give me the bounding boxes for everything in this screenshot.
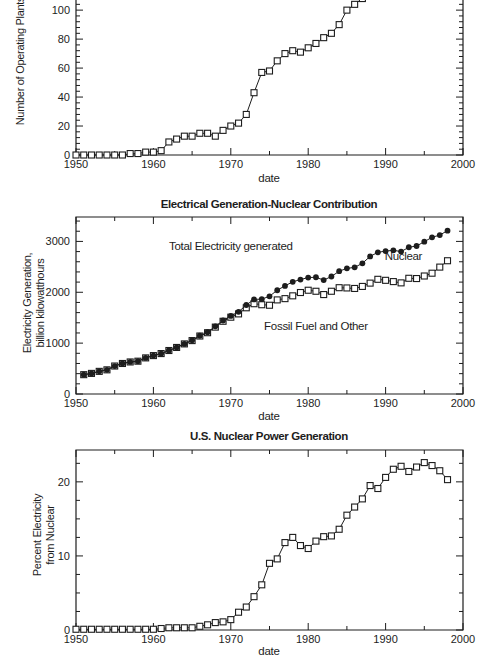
svg-text:0: 0 xyxy=(64,149,70,161)
svg-text:80: 80 xyxy=(58,33,70,45)
svg-text:1970: 1970 xyxy=(219,633,243,645)
svg-text:1990: 1990 xyxy=(373,397,397,409)
svg-text:1000: 1000 xyxy=(46,337,70,349)
svg-text:0: 0 xyxy=(64,388,70,400)
svg-text:1990: 1990 xyxy=(373,633,397,645)
svg-text:1970: 1970 xyxy=(219,397,243,409)
figure-page: 1950196019701980199020000204060801001950… xyxy=(0,0,497,656)
svg-text:1960: 1960 xyxy=(141,633,165,645)
plants-y-axis-label: Number of Operating Plants xyxy=(14,0,27,125)
chart-operating-plants: 195019601970198019902000020406080100 xyxy=(52,0,476,170)
svg-text:1980: 1980 xyxy=(296,158,320,170)
svg-text:1990: 1990 xyxy=(373,158,397,170)
svg-text:40: 40 xyxy=(58,91,70,103)
svg-text:2000: 2000 xyxy=(451,633,475,645)
svg-text:10: 10 xyxy=(58,550,70,562)
svg-text:Nuclear: Nuclear xyxy=(385,250,423,262)
svg-text:20: 20 xyxy=(58,476,70,488)
svg-text:2000: 2000 xyxy=(46,286,70,298)
percent-y-axis-label-line2: from Nuclear xyxy=(43,494,56,576)
svg-text:20: 20 xyxy=(58,120,70,132)
svg-text:1960: 1960 xyxy=(141,158,165,170)
percent-y-axis-label: Percent Electricity from Nuclear xyxy=(31,494,56,576)
percent-chart-title: U.S. Nuclear Power Generation xyxy=(190,430,348,442)
svg-text:2000: 2000 xyxy=(451,158,475,170)
svg-text:2000: 2000 xyxy=(451,397,475,409)
svg-text:1980: 1980 xyxy=(296,633,320,645)
generation-x-axis-label: date xyxy=(258,410,280,422)
svg-text:0: 0 xyxy=(64,624,70,636)
chart-nuclear-percent: 19501960197019801990200001020 xyxy=(58,450,475,645)
generation-y-axis-label-line2: billion kilowatthours xyxy=(33,253,46,354)
generation-chart-title: Electrical Generation-Nuclear Contributi… xyxy=(161,198,377,210)
charts-canvas: 1950196019701980199020000204060801001950… xyxy=(0,0,497,656)
percent-y-axis-label-line1: Percent Electricity xyxy=(31,494,44,576)
svg-text:Total Electricity generated: Total Electricity generated xyxy=(169,240,293,252)
svg-text:1980: 1980 xyxy=(296,397,320,409)
svg-text:3000: 3000 xyxy=(46,235,70,247)
svg-text:1970: 1970 xyxy=(219,158,243,170)
generation-y-axis-label-line1: Electricity Generation, xyxy=(21,253,34,354)
generation-y-axis-label: Electricity Generation, billion kilowatt… xyxy=(21,253,46,354)
svg-text:60: 60 xyxy=(58,62,70,74)
plants-y-axis-label-line: Number of Operating Plants xyxy=(14,0,27,125)
plants-x-axis-label: date xyxy=(258,172,280,184)
chart-electrical-generation: 1950196019701980199020000100020003000Tot… xyxy=(46,217,476,409)
percent-x-axis-label: date xyxy=(258,645,280,656)
svg-text:Fossil Fuel and Other: Fossil Fuel and Other xyxy=(264,320,368,332)
svg-text:100: 100 xyxy=(52,4,70,16)
svg-text:1960: 1960 xyxy=(141,397,165,409)
